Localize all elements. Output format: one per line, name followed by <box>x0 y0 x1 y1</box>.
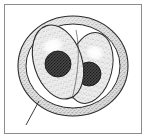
figure-root: Dividing cell with two daughter nuclei <box>0 0 147 139</box>
nucleus-left <box>45 51 71 77</box>
cell-division-illustration <box>0 0 147 139</box>
